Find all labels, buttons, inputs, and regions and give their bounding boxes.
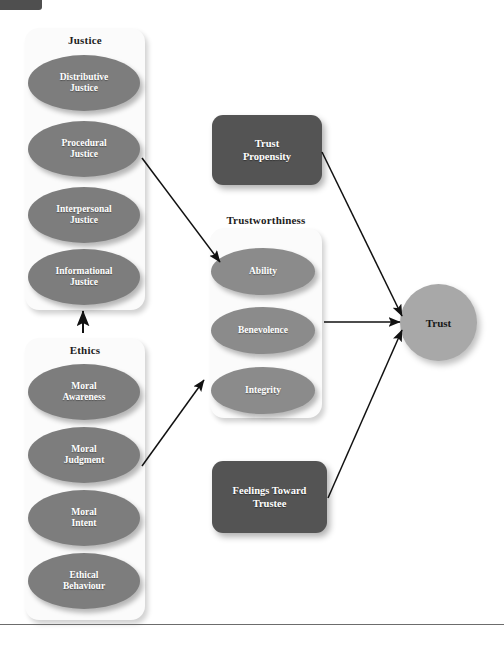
group-title-justice: Justice [25,34,145,46]
node-informational-justice: InformationalJustice [28,249,140,305]
node-benevolence: Benevolence [211,307,315,354]
arrow-justice-to-ability [142,158,220,262]
node-moral-intent: MoralIntent [28,490,140,546]
arrow-trust-propensity-to-trust [322,152,402,316]
arrow-feelings-toward-trustee-to-trust [328,330,402,498]
arrow-ethics-to-trustworthiness [142,380,204,466]
node-moral-awareness: MoralAwareness [28,364,140,420]
node-feelings-toward-trustee: Feelings TowardTrustee [212,461,327,533]
group-title-trustworthiness: Trustworthiness [210,214,322,226]
bottom-divider [0,624,504,625]
node-trust: Trust [400,284,477,361]
node-interpersonal-justice: InterpersonalJustice [28,187,140,243]
node-integrity: Integrity [211,367,315,414]
node-moral-judgment: MoralJudgment [28,427,140,483]
node-procedural-justice: ProceduralJustice [28,121,140,177]
model-diagram: Justice DistributiveJustice ProceduralJu… [0,0,504,649]
cropped-dark-bar [0,0,42,10]
node-ethical-behaviour: EthicalBehaviour [28,553,140,609]
node-trust-propensity: TrustPropensity [212,115,322,185]
node-ability: Ability [211,248,315,295]
group-title-ethics: Ethics [25,344,145,356]
node-distributive-justice: DistributiveJustice [28,55,140,111]
